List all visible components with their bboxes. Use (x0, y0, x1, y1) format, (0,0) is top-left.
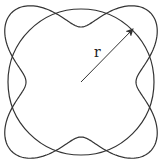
radius-arrow (81, 29, 133, 82)
diagram-canvas: r (0, 0, 161, 163)
four-lobed-curve (5, 6, 157, 158)
radius-label: r (94, 44, 101, 60)
